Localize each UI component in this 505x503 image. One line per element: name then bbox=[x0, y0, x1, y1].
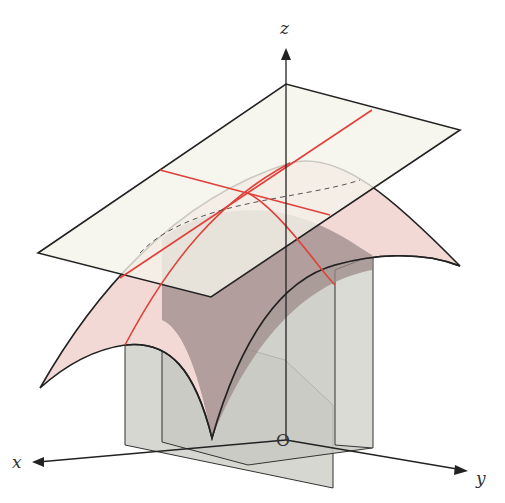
y-axis-label: y bbox=[476, 468, 486, 488]
x-arrow-icon bbox=[32, 457, 44, 467]
diagram-svg bbox=[0, 0, 505, 503]
plane-right-panel bbox=[335, 255, 373, 448]
z-axis-label: z bbox=[280, 18, 289, 38]
diagram-canvas: z x y O bbox=[0, 0, 505, 503]
x-axis-label: x bbox=[12, 452, 22, 472]
y-arrow-icon bbox=[454, 465, 468, 475]
tangent-plane bbox=[38, 84, 460, 297]
z-arrow-icon bbox=[281, 48, 291, 60]
origin-label: O bbox=[276, 430, 290, 450]
